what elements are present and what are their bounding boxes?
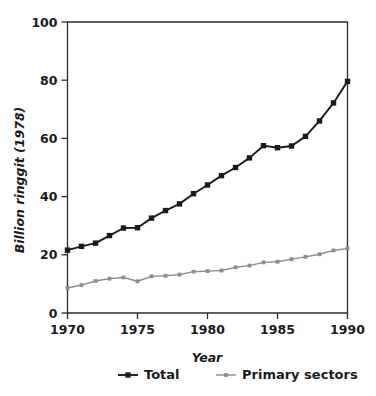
data-point-marker xyxy=(192,270,196,274)
data-point-marker xyxy=(318,252,322,256)
data-point-marker xyxy=(122,276,126,280)
data-point-marker xyxy=(304,255,308,259)
chart-canvas: 020406080100 19701975198019851990 Billio… xyxy=(0,0,376,396)
data-point-marker xyxy=(149,215,154,220)
y-tick-label: 60 xyxy=(40,131,58,146)
y-tick-label: 100 xyxy=(31,15,57,30)
data-point-marker xyxy=(93,240,98,245)
chart-figure: 020406080100 19701975198019851990 Billio… xyxy=(0,0,376,396)
data-point-marker xyxy=(233,165,238,170)
legend-marker xyxy=(125,372,130,377)
data-point-marker xyxy=(331,100,336,105)
data-point-marker xyxy=(346,247,350,251)
data-point-marker xyxy=(163,208,168,213)
legend-item-primary-sectors: Primary sectors xyxy=(216,367,358,382)
y-tick-label: 0 xyxy=(49,306,58,321)
y-tick-label: 80 xyxy=(40,73,58,88)
data-point-marker xyxy=(107,233,112,238)
x-axis-ticks: 19701975198019851990 xyxy=(50,313,365,337)
y-tick-label: 20 xyxy=(40,247,58,262)
data-point-marker xyxy=(276,260,280,264)
legend-label: Total xyxy=(144,367,180,382)
data-point-marker xyxy=(177,201,182,206)
x-tick-label: 1975 xyxy=(120,322,155,337)
data-point-marker xyxy=(205,182,210,187)
data-point-marker xyxy=(317,118,322,123)
data-point-marker xyxy=(303,134,308,139)
x-axis-title: Year xyxy=(192,350,223,365)
data-point-marker xyxy=(136,279,140,283)
chart-legend: TotalPrimary sectors xyxy=(118,367,358,382)
data-point-marker xyxy=(206,269,210,273)
series-line xyxy=(68,81,348,250)
data-point-marker xyxy=(289,143,294,148)
x-tick-label: 1980 xyxy=(190,322,225,337)
data-point-marker xyxy=(94,279,98,283)
data-point-marker xyxy=(164,274,168,278)
data-point-marker xyxy=(178,273,182,277)
data-point-marker xyxy=(65,247,70,252)
data-point-marker xyxy=(332,249,336,253)
y-axis-title: Billion ringgit (1978) xyxy=(12,107,27,254)
data-point-marker xyxy=(261,143,266,148)
y-axis-ticks: 020406080100 xyxy=(31,15,67,321)
data-point-marker xyxy=(219,173,224,178)
data-point-marker xyxy=(79,244,84,249)
series-layer xyxy=(65,79,350,290)
x-tick-label: 1985 xyxy=(260,322,295,337)
data-point-marker xyxy=(108,277,112,281)
legend-label: Primary sectors xyxy=(242,367,358,382)
series-primary-sectors xyxy=(66,247,350,290)
legend-item-total: Total xyxy=(118,367,180,382)
data-point-marker xyxy=(135,225,140,230)
x-tick-label: 1990 xyxy=(330,322,365,337)
data-point-marker xyxy=(191,191,196,196)
data-point-marker xyxy=(247,155,252,160)
data-point-marker xyxy=(121,225,126,230)
data-point-marker xyxy=(275,145,280,150)
data-point-marker xyxy=(220,269,224,273)
series-total xyxy=(65,79,350,253)
data-point-marker xyxy=(80,283,84,287)
x-tick-label: 1970 xyxy=(50,322,85,337)
y-tick-label: 40 xyxy=(40,189,58,204)
data-point-marker xyxy=(150,274,154,278)
data-point-marker xyxy=(345,79,350,84)
legend-marker xyxy=(224,373,228,377)
data-point-marker xyxy=(262,260,266,264)
series-line xyxy=(68,248,348,288)
data-point-marker xyxy=(248,264,252,268)
data-point-marker xyxy=(290,257,294,261)
data-point-marker xyxy=(66,286,70,290)
data-point-marker xyxy=(234,265,238,269)
